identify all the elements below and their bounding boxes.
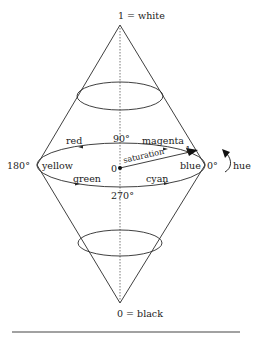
lower-section-ellipse bbox=[78, 230, 162, 256]
top-label: 1 = white bbox=[118, 10, 165, 21]
angle-90-label: 90° bbox=[113, 133, 130, 144]
hue-label: hue bbox=[233, 160, 251, 171]
hue-green-label: green bbox=[73, 173, 101, 184]
hue-cyan-label: cyan bbox=[146, 173, 168, 184]
center-point bbox=[118, 166, 122, 170]
hue-yellow-label: yellow bbox=[41, 160, 73, 171]
angle-270-label: 270° bbox=[111, 190, 134, 201]
saturation-one-label: 1 bbox=[185, 144, 191, 155]
hue-red-label: red bbox=[66, 135, 82, 146]
hue-magenta-label: magenta bbox=[142, 135, 184, 146]
angle-0-label: 0° bbox=[207, 160, 218, 171]
bottom-label: 0 = black bbox=[117, 308, 163, 319]
center-zero-label: 0 bbox=[111, 163, 117, 174]
double-cone-diagram: 1 = white 0 = black 90° 270° 180° 0° red… bbox=[0, 0, 253, 337]
hue-blue-label: blue bbox=[180, 160, 201, 171]
angle-180-label: 180° bbox=[7, 160, 30, 171]
